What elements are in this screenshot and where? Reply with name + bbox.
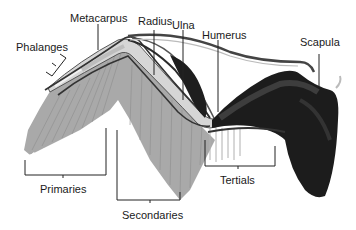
- label-tertials: Tertials: [220, 175, 255, 186]
- label-scapula: Scapula: [300, 37, 340, 48]
- label-humerus: Humerus: [202, 30, 247, 41]
- wing-anatomy-diagram: Metacarpus Radius Ulna Humerus Scapula P…: [0, 0, 356, 230]
- label-primaries: Primaries: [40, 184, 86, 195]
- label-metacarpus: Metacarpus: [70, 13, 127, 24]
- label-phalanges: Phalanges: [16, 42, 68, 53]
- label-ulna: Ulna: [172, 20, 195, 31]
- label-secondaries: Secondaries: [122, 210, 183, 221]
- label-radius: Radius: [138, 16, 172, 27]
- tertial-feathers: [210, 128, 240, 162]
